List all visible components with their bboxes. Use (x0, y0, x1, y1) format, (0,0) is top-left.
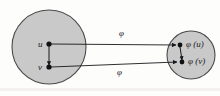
graph-homomorphism-figure: u v φ (u) φ (v) φ φ (0, 0, 220, 96)
node-label-v: v (38, 63, 42, 72)
map-arrow-label-lower: φ (117, 68, 122, 77)
node-label-u: u (38, 40, 43, 49)
node-label-phi-v: φ (v) (188, 57, 205, 66)
node-phi-v (180, 60, 185, 65)
node-v (46, 64, 51, 69)
map-arrow-label-upper: φ (119, 29, 124, 38)
node-u (46, 41, 51, 46)
scan-artifact-band-bottom (0, 88, 220, 91)
node-phi-u (178, 43, 183, 48)
node-label-phi-u: φ (u) (186, 40, 204, 49)
